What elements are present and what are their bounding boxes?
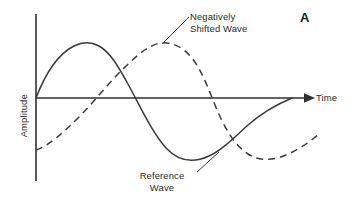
negatively-shifted-wave-leader-line [162,17,189,44]
reference-wave-leader-line [197,152,219,172]
reference-wave-label: Reference Wave [131,170,193,193]
panel-label: A [300,12,309,24]
series-reference-wave [36,43,292,160]
series-negatively-shifted-wave [36,43,320,160]
x-axis-label: Time [316,92,337,104]
waveform-phase-shift-figure: Negatively Shifted Wave Reference Wave T… [0,0,352,208]
arrow-right-icon [304,93,315,103]
y-axis-label: Amplitude [18,85,30,147]
negatively-shifted-wave-label: Negatively Shifted Wave [190,11,247,34]
